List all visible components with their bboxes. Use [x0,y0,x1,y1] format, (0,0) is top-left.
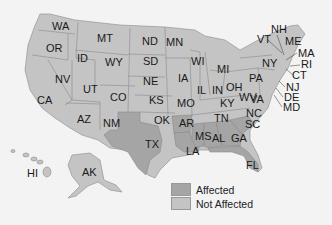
legend: Affected Not Affected [171,183,253,211]
svg-text:GA: GA [231,132,248,144]
svg-text:IN: IN [212,84,223,96]
svg-text:WA: WA [52,20,70,32]
svg-text:WY: WY [105,56,123,68]
svg-text:VA: VA [250,93,265,105]
legend-item-not-affected: Not Affected [171,197,253,210]
svg-text:KY: KY [220,97,235,109]
svg-text:UT: UT [83,83,98,95]
svg-text:OR: OR [46,42,63,54]
svg-text:PA: PA [249,72,264,84]
legend-label: Affected [196,184,234,196]
svg-text:HI: HI [27,167,38,179]
svg-text:MI: MI [217,63,229,75]
svg-text:NH: NH [271,23,287,35]
svg-text:ID: ID [77,52,88,64]
svg-text:ND: ND [142,35,158,47]
svg-text:SD: SD [143,55,158,67]
svg-text:MO: MO [177,97,195,109]
svg-text:WI: WI [191,55,204,67]
svg-text:OK: OK [154,114,171,126]
svg-text:MD: MD [283,101,300,113]
svg-text:CO: CO [110,91,127,103]
svg-text:VT: VT [257,33,271,45]
affected-swatch [171,183,191,196]
svg-text:IL: IL [197,84,206,96]
svg-text:CT: CT [292,69,307,81]
svg-text:NM: NM [103,117,120,129]
svg-text:TX: TX [145,138,160,150]
svg-text:IA: IA [178,72,189,84]
svg-text:AR: AR [179,117,194,129]
svg-text:AL: AL [212,132,225,144]
svg-text:KS: KS [149,94,164,106]
not-affected-swatch [171,197,191,210]
svg-text:CA: CA [37,94,53,106]
legend-item-affected: Affected [171,183,253,196]
svg-text:MS: MS [195,130,212,142]
svg-text:MN: MN [166,36,183,48]
svg-text:ME: ME [285,35,302,47]
svg-text:MT: MT [97,32,113,44]
svg-text:TN: TN [214,112,229,124]
svg-text:NE: NE [143,75,158,87]
svg-text:NV: NV [55,73,71,85]
svg-text:FL: FL [246,159,259,171]
svg-text:NY: NY [262,57,278,69]
svg-text:AK: AK [82,166,97,178]
legend-label: Not Affected [196,198,253,210]
svg-text:SC: SC [245,118,260,130]
us-map: WA OR CA ID NV MT WY UT AZ CO NM ND SD N… [0,0,332,225]
svg-text:AZ: AZ [77,113,91,125]
svg-text:LA: LA [186,145,200,157]
